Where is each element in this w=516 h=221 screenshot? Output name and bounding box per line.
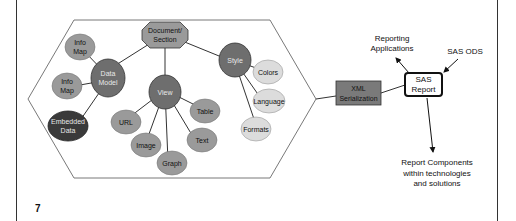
info-map-node-1: Info Map [65, 34, 95, 60]
table-label: Table [197, 108, 214, 115]
page-number: 7 [35, 203, 41, 214]
image-label: Image [136, 142, 156, 150]
sas-ods-label: SAS ODS [447, 47, 483, 56]
url-label: URL [119, 119, 133, 126]
document-section-label-2: Section [153, 36, 176, 43]
reporting-apps-line-1: Reporting [375, 34, 410, 43]
info-map-2-label-1: Info [61, 78, 73, 85]
graph-node: Graph [157, 151, 187, 175]
formats-label: Formats [243, 126, 269, 133]
report-components-line-2: within technologies [402, 169, 471, 178]
embedded-data-label-1: Embedded [51, 118, 85, 125]
sas-report-label-1: SAS [415, 75, 431, 84]
xml-label-2: Serialization [339, 95, 377, 102]
info-map-1-label-1: Info [74, 39, 86, 46]
image-node: Image [131, 133, 161, 157]
info-map-node-2: Info Map [52, 73, 82, 99]
diagram-canvas: Document/ Section Data Model Info Map In… [0, 0, 516, 221]
document-section-label-1: Document/ [148, 27, 182, 34]
info-map-1-label-2: Map [73, 48, 87, 56]
style-label: Style [227, 57, 243, 65]
sas-report-label-2: Report [411, 85, 436, 94]
colors-label: Colors [258, 69, 279, 76]
report-components-line-3: and solutions [413, 179, 460, 188]
table-node: Table [190, 99, 220, 123]
reporting-apps-line-2: Applications [370, 44, 413, 53]
xml-label-1: XML [351, 85, 366, 92]
reporting-applications-label: Reporting Applications [370, 34, 413, 53]
formats-node: Formats [241, 117, 271, 141]
embedded-data-node: Embedded Data [48, 111, 88, 141]
language-label: Language [253, 98, 284, 106]
graph-label: Graph [162, 160, 182, 168]
data-model-node: Data Model [91, 59, 125, 97]
view-node: View [149, 75, 181, 109]
info-map-2-label-2: Map [60, 87, 74, 95]
text-node: Text [187, 128, 217, 152]
data-model-label-1: Data [101, 70, 116, 77]
style-node: Style [219, 43, 251, 77]
report-components-label: Report Components within technologies an… [401, 158, 473, 188]
language-node: Language [253, 89, 285, 113]
data-model-label-2: Model [98, 79, 118, 86]
report-components-line-1: Report Components [401, 158, 473, 167]
sas-report-node: SAS Report [405, 73, 442, 96]
text-label: Text [196, 137, 209, 144]
colors-node: Colors [253, 60, 283, 84]
xml-serialization-node: XML Serialization [336, 81, 381, 105]
url-node: URL [111, 110, 141, 134]
view-label: View [157, 89, 173, 96]
document-section-node: Document/ Section [142, 22, 188, 48]
embedded-data-label-2: Data [61, 127, 76, 134]
